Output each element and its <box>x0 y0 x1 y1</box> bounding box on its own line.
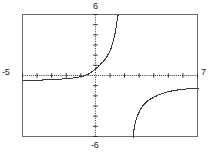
function-curve-group <box>23 15 199 138</box>
plot-canvas <box>0 0 215 154</box>
x-max-label: 7 <box>201 68 206 77</box>
curve-branch-right <box>133 88 199 138</box>
graph-screenshot: 6 -6 -5 7 <box>0 0 215 154</box>
x-min-label: -5 <box>2 68 10 77</box>
curve-branch-left <box>23 15 119 81</box>
y-min-label: -6 <box>91 141 99 150</box>
y-max-label: 6 <box>93 2 98 11</box>
tick-marks-group <box>23 15 198 137</box>
